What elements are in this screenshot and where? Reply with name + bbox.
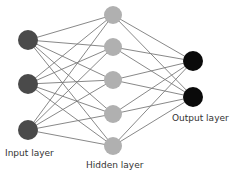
- connection-edge: [113, 97, 193, 114]
- hidden-node: [104, 137, 122, 155]
- connection-edge: [113, 15, 193, 97]
- input-layer-label: Input layer: [5, 148, 54, 158]
- connection-edge: [113, 61, 193, 146]
- input-node: [18, 120, 38, 140]
- connection-edge: [28, 40, 113, 114]
- output-node: [183, 87, 203, 107]
- connection-edge: [28, 47, 113, 84]
- connection-edge: [113, 61, 193, 80]
- output-layer-label: Output layer: [172, 113, 229, 123]
- hidden-node: [104, 71, 122, 89]
- hidden-node: [104, 6, 122, 24]
- connection-edge: [113, 61, 193, 114]
- input-node: [18, 30, 38, 50]
- connection-edge: [28, 15, 113, 130]
- input-node: [18, 74, 38, 94]
- connection-edge: [28, 130, 113, 146]
- connection-edge: [28, 80, 113, 130]
- connection-edge: [28, 80, 113, 84]
- hidden-layer-label: Hidden layer: [86, 160, 143, 170]
- hidden-node: [104, 38, 122, 56]
- output-node: [183, 51, 203, 71]
- hidden-node: [104, 105, 122, 123]
- connection-edge: [113, 80, 193, 97]
- connection-edge: [28, 15, 113, 40]
